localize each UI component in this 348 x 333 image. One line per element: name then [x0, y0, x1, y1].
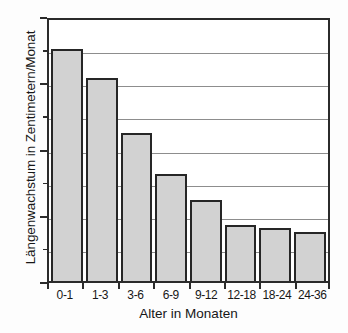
x-tick-label: 6-9 — [153, 288, 188, 302]
y-axis-ticks: 01234 — [47, 18, 330, 283]
y-tick — [40, 282, 47, 284]
x-tick-label: 9-12 — [189, 288, 224, 302]
x-tick-label: 0-1 — [47, 288, 82, 302]
x-axis-tick-labels: 0-11-33-66-99-1212-1818-2424-36 — [47, 288, 330, 302]
x-tick-label: 1-3 — [82, 288, 117, 302]
bar-chart: Längenwachstum in Zentimetern/Monat 0123… — [0, 0, 348, 333]
y-tick-minor — [43, 183, 47, 185]
y-tick-minor — [43, 50, 47, 52]
y-tick — [40, 83, 47, 85]
x-axis-title: Alter in Monaten — [47, 306, 330, 321]
y-tick — [40, 150, 47, 152]
y-tick — [40, 216, 47, 218]
y-tick — [40, 17, 47, 19]
x-tick-label: 12-18 — [224, 288, 259, 302]
x-tick-label: 3-6 — [118, 288, 153, 302]
y-axis-title: Längenwachstum in Zentimetern/Monat — [23, 13, 38, 283]
y-tick-minor — [43, 249, 47, 251]
x-tick-label: 24-36 — [295, 288, 330, 302]
y-tick-minor — [43, 116, 47, 118]
x-tick-label: 18-24 — [259, 288, 294, 302]
